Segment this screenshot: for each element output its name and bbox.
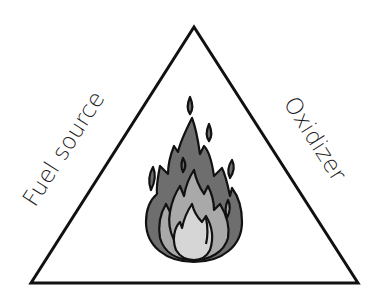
flame-icon	[146, 97, 242, 262]
diagram-canvas: Fuel source Oxidizer	[0, 0, 375, 306]
fire-triangle-diagram: Fuel source Oxidizer	[0, 0, 375, 306]
label-oxidizer: Oxidizer	[279, 92, 352, 186]
label-fuel-source: Fuel source	[17, 86, 109, 210]
